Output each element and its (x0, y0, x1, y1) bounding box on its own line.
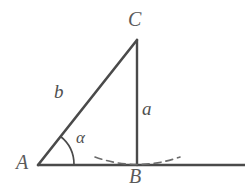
vertex-label-c: C (128, 9, 141, 29)
geometry-figure: C A B b a α (0, 0, 245, 188)
vertex-label-a: A (16, 152, 28, 172)
side-label-a: a (142, 99, 152, 118)
angle-label-alpha: α (76, 129, 85, 146)
triangle-svg (0, 0, 245, 188)
side-label-b: b (54, 82, 64, 101)
side-b-line (38, 40, 137, 165)
vertex-label-b: B (129, 166, 141, 186)
angle-alpha-arc (60, 136, 74, 165)
